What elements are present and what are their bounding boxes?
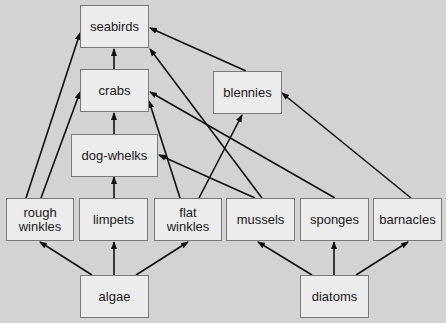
- arrow-algae-to-flat-winkles: [136, 242, 188, 275]
- node-algae: algae: [80, 275, 149, 318]
- node-mussels: mussels: [226, 198, 295, 241]
- arrow-diatoms-to-barnacles: [356, 242, 408, 275]
- node-limpets: limpets: [79, 198, 148, 241]
- node-sponges: sponges: [300, 198, 369, 241]
- node-diatoms: diatoms: [300, 275, 369, 318]
- node-seabirds: seabirds: [80, 5, 149, 48]
- node-blennies: blennies: [213, 71, 282, 114]
- food-web-diagram: seabirds crabs blennies dog-whelks rough…: [0, 0, 446, 323]
- node-flat-winkles: flat winkles: [154, 198, 222, 241]
- arrow-barnacles-to-blennies: [282, 93, 411, 198]
- node-rough-winkles: rough winkles: [6, 198, 74, 241]
- arrow-algae-to-rough-winkles: [40, 242, 92, 275]
- node-barnacles: barnacles: [373, 198, 442, 241]
- arrow-flat-winkles-to-blennies: [199, 115, 242, 198]
- arrow-blennies-to-seabirds: [150, 28, 246, 71]
- node-crabs: crabs: [80, 69, 149, 112]
- node-dog-whelks: dog-whelks: [71, 134, 158, 177]
- arrows-layer: [0, 0, 446, 323]
- arrow-diatoms-to-mussels: [258, 242, 312, 275]
